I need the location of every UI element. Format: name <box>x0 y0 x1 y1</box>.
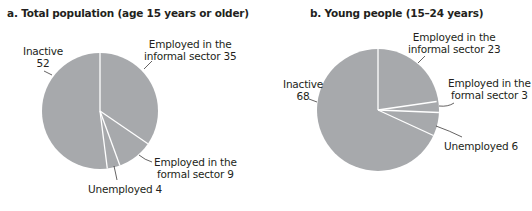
label-b-formal: Employed in the formal sector 3 <box>448 77 531 101</box>
label-b-unemployed: Unemployed 6 <box>444 140 518 152</box>
label-a-formal: Employed in the formal sector 9 <box>154 156 237 180</box>
label-b-unemployed-line1: Unemployed 6 <box>444 140 518 152</box>
label-b-formal-line1: Employed in the <box>448 77 531 89</box>
label-a-unemployed-line1: Unemployed 4 <box>88 183 162 195</box>
label-a-formal-line1: Employed in the <box>154 156 237 168</box>
chart-b-title: b. Young people (15–24 years) <box>310 7 483 19</box>
label-a-informal: Employed in the informal sector 35 <box>144 38 236 62</box>
label-b-formal-line2: formal sector 3 <box>448 89 531 101</box>
label-b-inactive-line1: Inactive <box>283 78 323 90</box>
label-b-informal-line1: Employed in the <box>408 31 500 43</box>
label-a-unemployed: Unemployed 4 <box>88 183 162 195</box>
label-b-informal-line2: informal sector 23 <box>408 43 500 55</box>
label-a-informal-line1: Employed in the <box>144 38 236 50</box>
label-b-inactive: Inactive 68 <box>283 78 323 102</box>
label-a-informal-line2: informal sector 35 <box>144 50 236 62</box>
label-a-inactive-line1: Inactive <box>23 45 63 57</box>
label-b-inactive-line2: 68 <box>283 90 323 102</box>
label-a-inactive: Inactive 52 <box>23 45 63 69</box>
label-a-inactive-line2: 52 <box>23 57 63 69</box>
label-a-formal-line2: formal sector 9 <box>154 168 237 180</box>
pie-b <box>309 49 462 171</box>
pie-a <box>42 53 158 180</box>
label-b-informal: Employed in the informal sector 23 <box>408 31 500 55</box>
